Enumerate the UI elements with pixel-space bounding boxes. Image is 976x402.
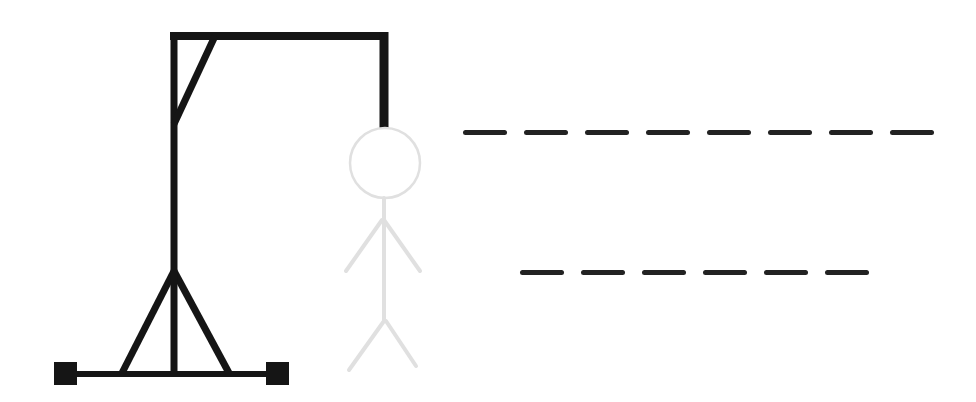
figure-left-arm [346,220,382,271]
letter-slot [585,115,631,135]
hangman-board [0,0,976,402]
blank-dash [524,130,568,135]
blank-dash [890,130,934,135]
blank-dash [764,270,808,275]
word-row-2 [520,255,886,275]
letter-slot [890,115,936,135]
blank-dash [520,270,564,275]
letter-slot [646,115,692,135]
letter-slot [707,115,753,135]
letter-slot [829,115,875,135]
blank-dash [463,130,507,135]
letter-slot [524,115,570,135]
gallows [54,32,388,385]
letter-slot [764,255,810,275]
blank-dash [707,130,751,135]
letter-slot [768,115,814,135]
letter-slot [581,255,627,275]
blank-dash [642,270,686,275]
gallows-brace [174,36,215,124]
letter-slot [642,255,688,275]
blank-dash [829,130,873,135]
gallows-right-strut [174,271,229,373]
blank-dash [703,270,747,275]
letter-slot [703,255,749,275]
letter-slot [520,255,566,275]
word-row-1 [463,115,951,135]
blank-dash [825,270,869,275]
figure-left-leg [349,321,384,370]
figure-right-leg [386,321,416,366]
letter-slot [825,255,871,275]
blank-dash [581,270,625,275]
letter-slot [463,115,509,135]
gallows-left-strut [122,271,174,373]
blank-dash [646,130,690,135]
hanged-figure [346,128,420,370]
figure-right-arm [384,220,420,271]
blank-dash [768,130,812,135]
gallows-base-right-foot [266,362,289,385]
gallows-base-left-foot [54,362,77,385]
figure-head [350,128,420,198]
blank-dash [585,130,629,135]
